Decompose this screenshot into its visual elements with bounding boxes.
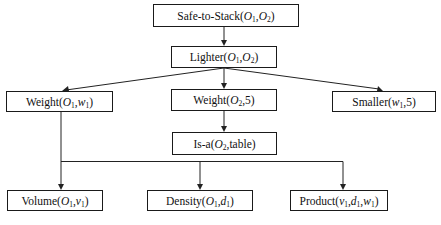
argument-variable: O xyxy=(244,10,252,22)
predicate-name: Product xyxy=(300,195,336,207)
argument-variable: O xyxy=(61,195,69,207)
node-lighter: Lighter(O1,O2) xyxy=(171,46,277,68)
predicate-name: Is-a xyxy=(193,138,210,150)
predicate-name: Volume xyxy=(21,195,57,207)
node-density: Density(O1,d1) xyxy=(147,190,253,211)
node-label: Smaller(w1,5) xyxy=(352,96,416,108)
node-weight-o2-5: Weight(O2,5) xyxy=(171,89,277,111)
argument-variable: O xyxy=(259,10,267,22)
node-label: Weight(O1,w1) xyxy=(26,96,93,108)
predicate-name: Weight xyxy=(193,94,226,106)
predicate-name: Density xyxy=(166,195,202,207)
argument-variable: w xyxy=(363,195,371,207)
node-label: Safe-to-Stack(O1,O2) xyxy=(177,10,274,22)
node-label: Product(v1,d1,w1) xyxy=(300,195,379,207)
node-smaller: Smaller(w1,5) xyxy=(332,91,436,112)
argument-variable: O xyxy=(214,138,222,150)
edge-weight-o2-is-a xyxy=(221,111,227,132)
predicate-name: Smaller xyxy=(352,96,388,108)
argument-variable: O xyxy=(206,195,214,207)
node-product: Product(v1,d1,w1) xyxy=(290,190,388,211)
node-label: Lighter(O1,O2) xyxy=(190,51,259,63)
argument-variable: O xyxy=(227,51,235,63)
edge-lighter-weight-o1 xyxy=(62,68,224,91)
edge-lighter-weight-o2 xyxy=(221,68,227,89)
argument-variable: O xyxy=(63,96,71,108)
argument-constant: 5 xyxy=(406,96,412,108)
node-is-a: Is-a(O2,table) xyxy=(172,132,277,155)
node-label: Is-a(O2,table) xyxy=(193,138,255,150)
node-safe-to-stack: Safe-to-Stack(O1,O2) xyxy=(153,4,299,27)
node-label: Weight(O2,5) xyxy=(193,94,254,106)
edge-lighter-smaller xyxy=(224,68,383,91)
predicate-name: Safe-to-Stack xyxy=(177,10,240,22)
argument-constant: table xyxy=(229,138,251,150)
argument-constant: 5 xyxy=(245,94,251,106)
predicate-name: Weight xyxy=(26,96,59,108)
node-weight-o1-w1: Weight(O1,w1) xyxy=(6,91,113,112)
node-volume: Volume(O1,v1) xyxy=(7,190,103,211)
predicate-name: Lighter xyxy=(190,51,224,63)
edge-safe-to-stack-lighter xyxy=(221,27,227,46)
argument-variable: O xyxy=(242,51,250,63)
node-label: Density(O1,d1) xyxy=(166,195,234,207)
node-label: Volume(O1,v1) xyxy=(21,195,88,207)
argument-variable: w xyxy=(392,96,400,108)
